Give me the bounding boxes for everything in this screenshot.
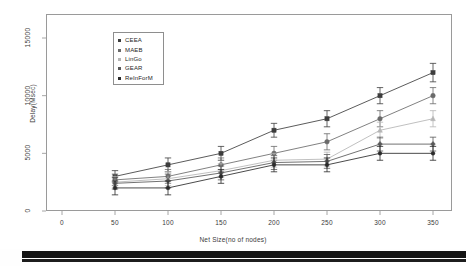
y-tick-label-15000: 15000 (24, 25, 31, 51)
legend-marker-icon (118, 67, 121, 70)
x-tick-label-0: 0 (48, 219, 76, 226)
x-tick-label-100: 100 (154, 219, 182, 226)
legend-item-label: LinGo (125, 55, 142, 64)
chart-figure: 0 5000 10000 15000 0 50 100 150 200 250 … (0, 0, 466, 266)
legend-marker-icon (118, 39, 121, 42)
y-tick-label-0: 0 (24, 198, 31, 224)
x-tick-label-350: 350 (419, 219, 447, 226)
x-axis-title: Net Size(no of nodes) (0, 236, 466, 243)
legend-marker-icon (118, 58, 121, 61)
legend-marker-icon (118, 77, 121, 80)
plot-canvas (0, 0, 466, 266)
legend-item-lingo: LinGo (114, 55, 163, 64)
y-tick-label-5000: 5000 (24, 140, 31, 166)
x-tick-label-150: 150 (207, 219, 235, 226)
legend-item-label: ReInForM (125, 74, 153, 83)
scan-edge-bar-secondary (22, 259, 466, 262)
x-tick-label-50: 50 (101, 219, 129, 226)
legend-item-label: GEAR (125, 64, 143, 73)
scan-edge-bar (22, 251, 466, 258)
legend-item-reinform: ReInForM (114, 74, 163, 83)
x-tick-label-300: 300 (366, 219, 394, 226)
legend-item-label: CEEA (125, 36, 142, 45)
legend-item-label: MAEB (125, 46, 143, 55)
y-axis-title: Delay(Msec) (29, 64, 36, 144)
legend-item-maeb: MAEB (114, 45, 163, 54)
legend-item-ceea: CEEA (114, 36, 163, 45)
legend-item-gear: GEAR (114, 64, 163, 73)
x-tick-label-200: 200 (260, 219, 288, 226)
axis-ticks (42, 38, 433, 215)
chart-legend: CEEAMAEBLinGoGEARReInForM (113, 32, 164, 85)
legend-marker-icon (118, 49, 121, 52)
x-tick-label-250: 250 (313, 219, 341, 226)
